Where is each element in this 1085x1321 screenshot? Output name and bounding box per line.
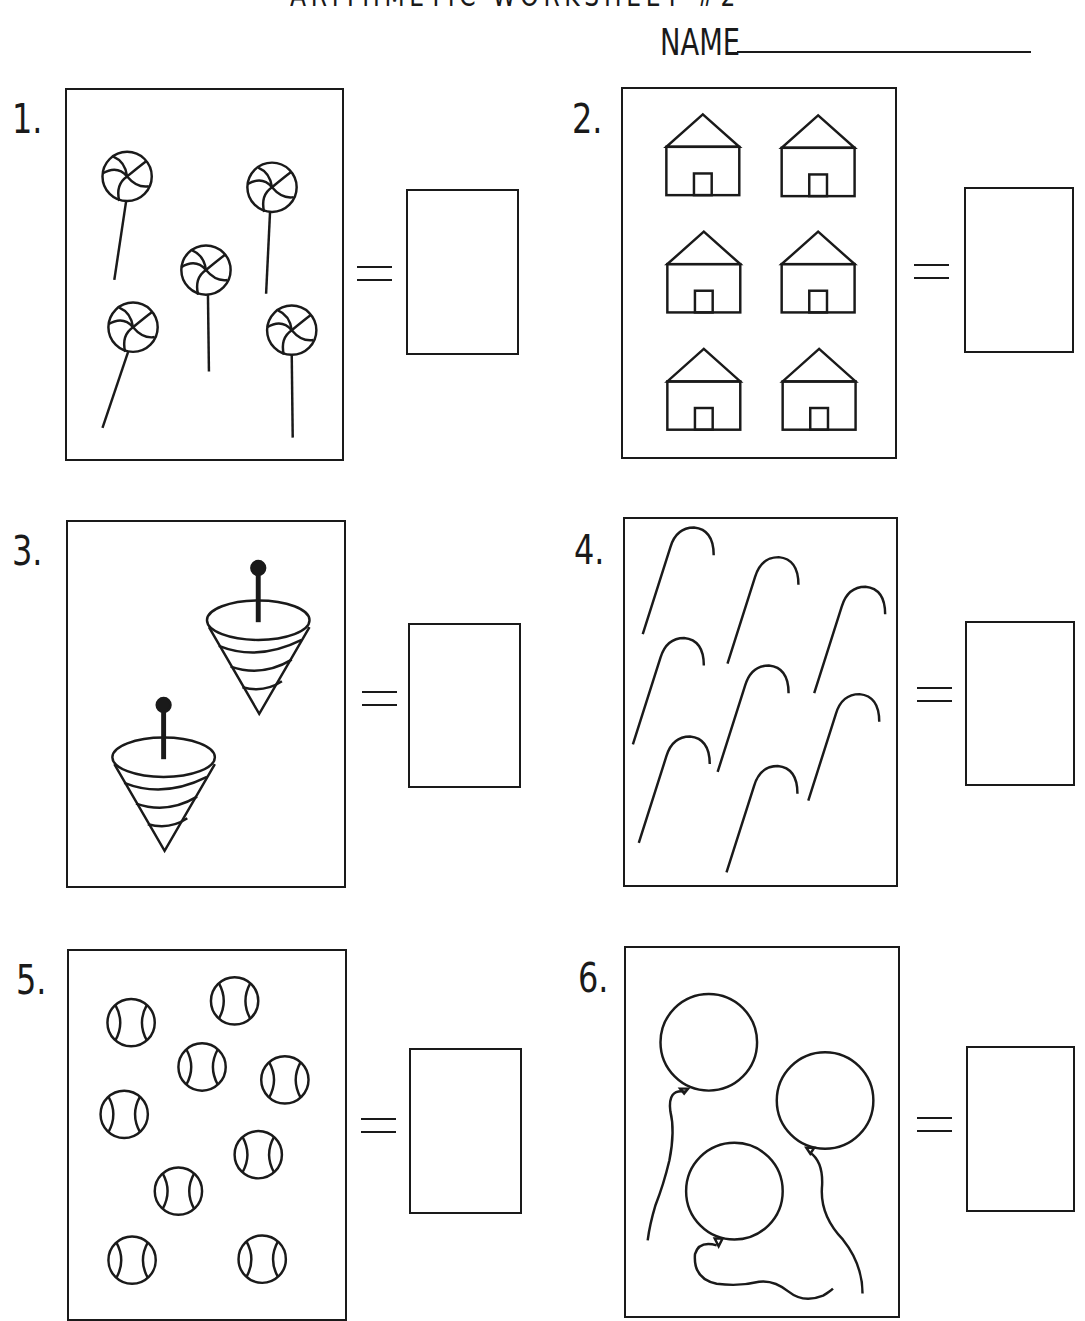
answer-box-6[interactable]: [966, 1046, 1075, 1212]
problem-6-number: 6.: [578, 955, 609, 1001]
problem-1-number: 1.: [12, 96, 43, 142]
answer-box-3[interactable]: [408, 623, 521, 788]
lollipops-icon: [67, 90, 342, 459]
equals-sign-6: [917, 1117, 952, 1133]
balls-icon: [69, 951, 345, 1319]
name-field[interactable]: [737, 51, 1031, 53]
equals-sign-3: [362, 691, 397, 707]
problem-4-picture: [623, 517, 898, 887]
equals-sign-1: [357, 266, 392, 282]
name-label: NAME: [660, 20, 740, 64]
answer-box-4[interactable]: [965, 621, 1075, 786]
worksheet-title: ARITHMETIC WORKSHEET #2: [290, 0, 740, 13]
balloons-icon: [626, 948, 898, 1316]
equals-sign-2: [914, 264, 949, 280]
problem-3-number: 3.: [12, 528, 43, 574]
answer-box-5[interactable]: [409, 1048, 522, 1214]
answer-box-2[interactable]: [964, 187, 1074, 353]
candy-canes-icon: [625, 519, 896, 885]
answer-box-1[interactable]: [406, 189, 519, 355]
spinning-tops-icon: [68, 522, 344, 886]
equals-sign-4: [917, 687, 952, 703]
problem-6-picture: [624, 946, 900, 1318]
problem-5-picture: [67, 949, 347, 1321]
problem-2-number: 2.: [572, 96, 603, 142]
problem-5-number: 5.: [16, 957, 47, 1003]
equals-sign-5: [361, 1118, 396, 1134]
problem-2-picture: [621, 87, 897, 459]
houses-icon: [623, 89, 895, 457]
problem-3-picture: [66, 520, 346, 888]
problem-4-number: 4.: [574, 527, 605, 573]
problem-1-picture: [65, 88, 344, 461]
